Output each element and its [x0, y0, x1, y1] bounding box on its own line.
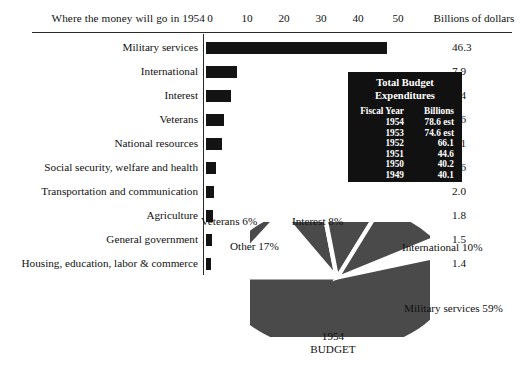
- page-title: Where the money will go in 1954: [30, 12, 205, 24]
- inset-table-row: 195266.1: [348, 138, 462, 149]
- pie-label-interest: Interest 8%: [292, 215, 343, 227]
- bar-row-value: 1.8: [452, 209, 512, 221]
- bar-row-label: Housing, education, labor & commerce: [8, 257, 198, 269]
- bar-row-value: 46.3: [452, 41, 512, 53]
- pie-label-international: International 10%: [402, 241, 482, 253]
- chart-header: Where the money will go in 1954 0 10 20 …: [0, 12, 528, 30]
- budget-infographic: Where the money will go in 1954 0 10 20 …: [0, 0, 528, 366]
- axis-tick-10: 10: [236, 12, 258, 24]
- axis-tick-50: 50: [387, 12, 409, 24]
- bar-mark: [206, 234, 212, 246]
- inset-cell-year: 1949: [352, 170, 404, 181]
- inset-cell-year: 1950: [352, 159, 404, 170]
- inset-table-row: 195040.2: [348, 159, 462, 170]
- bar-row-label: Social security, welfare and health: [8, 161, 198, 173]
- pie-label-other: Other 17%: [230, 240, 279, 252]
- inset-cell-billions: 40.1: [404, 170, 456, 181]
- bar-mark: [206, 138, 222, 150]
- bar-mark: [206, 162, 216, 174]
- pie-label-military: Military services 59%: [404, 302, 503, 314]
- bar-row-label: General government: [8, 233, 198, 245]
- axis-tick-30: 30: [310, 12, 332, 24]
- inset-title-line2: Expenditures: [348, 90, 462, 103]
- inset-table-row: 194940.1: [348, 170, 462, 181]
- pie-label-veterans: Veterans 6%: [201, 215, 257, 227]
- bar-chart-axis-line: [203, 34, 204, 275]
- bar-mark: [206, 114, 224, 126]
- inset-column-headers: Fiscal Year Billions: [348, 102, 462, 117]
- axis-tick-40: 40: [347, 12, 369, 24]
- axis-tick-0: 0: [199, 12, 221, 24]
- inset-cell-year: 1952: [352, 138, 404, 149]
- bar-row-label: International: [8, 65, 198, 77]
- inset-table-row: 194598.7: [348, 181, 462, 192]
- inset-table-row: 195374.6 est: [348, 128, 462, 139]
- bar-mark: [206, 258, 211, 270]
- inset-table-row: 195478.6 est: [348, 117, 462, 128]
- header-divider-rule: [32, 32, 512, 33]
- pie-caption: 1954 BUDGET: [278, 330, 388, 356]
- inset-cell-year: 1954: [352, 117, 404, 128]
- bar-row-value: 1.4: [452, 257, 512, 269]
- bar-row-label: Transportation and communication: [8, 185, 198, 197]
- inset-cell-billions: 66.1: [404, 138, 456, 149]
- inset-table-row: 195144.6: [348, 149, 462, 160]
- bar-mark: [206, 66, 237, 78]
- bar-row-label: National resources: [8, 137, 198, 149]
- inset-cell-billions: 44.6: [404, 149, 456, 160]
- inset-cell-billions: 40.2: [404, 159, 456, 170]
- total-budget-expenditures-inset: Total Budget Expenditures Fiscal Year Bi…: [348, 72, 462, 182]
- inset-cell-billions: 78.6 est: [404, 117, 456, 128]
- inset-header-billions: Billions: [404, 106, 456, 116]
- axis-tick-20: 20: [273, 12, 295, 24]
- bar-row-label: Military services: [8, 41, 198, 53]
- inset-cell-year: 1951: [352, 149, 404, 160]
- bar-mark: [206, 90, 231, 102]
- bar-row-label: Agriculture: [8, 209, 198, 221]
- inset-cell-year: 1953: [352, 128, 404, 139]
- inset-cell-year: 1945: [352, 181, 404, 192]
- inset-header-fiscal-year: Fiscal Year: [352, 106, 404, 116]
- bar-mark: [206, 42, 387, 54]
- inset-cell-billions: 98.7: [404, 181, 456, 192]
- bar-row-label: Interest: [8, 89, 198, 101]
- pie-caption-word: BUDGET: [278, 343, 388, 356]
- inset-title-line1: Total Budget: [348, 72, 462, 90]
- bar-row-label: Veterans: [8, 113, 198, 125]
- pie-caption-year: 1954: [278, 330, 388, 343]
- inset-cell-billions: 74.6 est: [404, 128, 456, 139]
- bar-mark: [206, 186, 214, 198]
- axis-unit-label: Billions of dollars: [424, 12, 524, 24]
